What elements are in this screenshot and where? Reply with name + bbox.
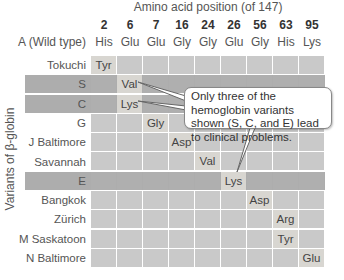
callout-pointers: [0, 0, 344, 280]
callout-note: Only three of the hemoglobin variants sh…: [184, 87, 332, 129]
